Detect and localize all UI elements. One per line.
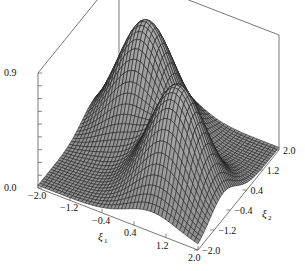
svg-text:2: 2 [268,214,272,222]
svg-text:1: 1 [104,237,108,245]
xi1-tick-label: −1.2 [60,202,78,213]
xi1-tick-label: 2.0 [188,252,201,263]
xi2-axis-title: ξ 2 [262,207,272,222]
xi2-tick-label: 1.2 [267,165,280,176]
xi2-tick-label: 2.0 [283,145,296,156]
xi1-tick-label: −0.4 [92,215,110,226]
xi2-tick-label: 0.4 [251,185,264,196]
xi2-tick-label: −2.0 [202,245,220,256]
xi1-axis-title: ξ 1 [98,230,108,245]
xi1-tick-label: −2.0 [28,190,46,201]
xi2-tick-label: −1.2 [218,225,236,236]
svg-text:ξ: ξ [98,230,103,243]
z-tick-bottom: 0.0 [4,182,17,193]
xi2-tick-label: −0.4 [234,205,252,216]
surface-plot: 0.9 0.0 ξ 1 ξ 2 −2.0−1.2−0.40.41.22.0 −2… [0,0,305,271]
xi1-tick-label: 0.4 [124,227,137,238]
svg-text:ξ: ξ [262,207,267,220]
xi1-tick-label: 1.2 [156,240,169,251]
z-tick-top: 0.9 [4,67,17,78]
